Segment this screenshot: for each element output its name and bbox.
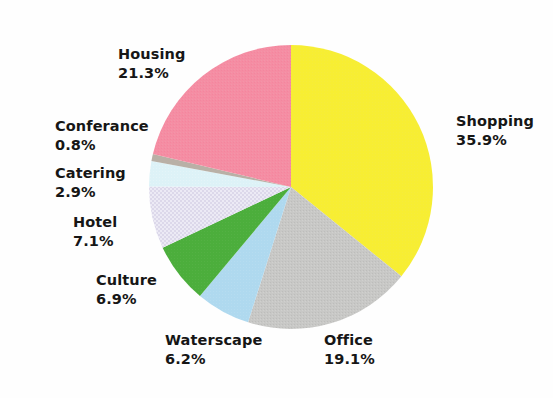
pie-label-conferance-name: Conferance bbox=[55, 117, 149, 136]
pie-label-office: Office 19.1% bbox=[324, 331, 375, 369]
pie-label-culture: Culture 6.9% bbox=[96, 271, 157, 309]
pie-label-hotel: Hotel 7.1% bbox=[73, 213, 117, 251]
pie-label-culture-value: 6.9% bbox=[96, 290, 157, 309]
pie-label-waterscape-value: 6.2% bbox=[165, 350, 262, 369]
pie-label-shopping-name: Shopping bbox=[456, 112, 534, 131]
pie-label-office-name: Office bbox=[324, 331, 375, 350]
pie-label-waterscape-name: Waterscape bbox=[165, 331, 262, 350]
pie-label-housing-name: Housing bbox=[118, 45, 185, 64]
pie-label-housing: Housing 21.3% bbox=[118, 45, 185, 83]
pie-label-shopping-value: 35.9% bbox=[456, 131, 534, 150]
pie-label-housing-value: 21.3% bbox=[118, 64, 185, 83]
pie-label-culture-name: Culture bbox=[96, 271, 157, 290]
pie-label-waterscape: Waterscape 6.2% bbox=[165, 331, 262, 369]
pie-label-catering-value: 2.9% bbox=[55, 183, 126, 202]
pie-label-catering-name: Catering bbox=[55, 164, 126, 183]
pie-label-conferance: Conferance 0.8% bbox=[55, 117, 149, 155]
pie-label-shopping: Shopping 35.9% bbox=[456, 112, 534, 150]
pie-slice-group bbox=[149, 45, 433, 329]
pie-label-hotel-name: Hotel bbox=[73, 213, 117, 232]
pie-chart-figure: Shopping 35.9% Housing 21.3% Conferance … bbox=[0, 0, 553, 398]
pie-label-conferance-value: 0.8% bbox=[55, 136, 149, 155]
pie-label-catering: Catering 2.9% bbox=[55, 164, 126, 202]
pie-label-hotel-value: 7.1% bbox=[73, 232, 117, 251]
pie-label-office-value: 19.1% bbox=[324, 350, 375, 369]
